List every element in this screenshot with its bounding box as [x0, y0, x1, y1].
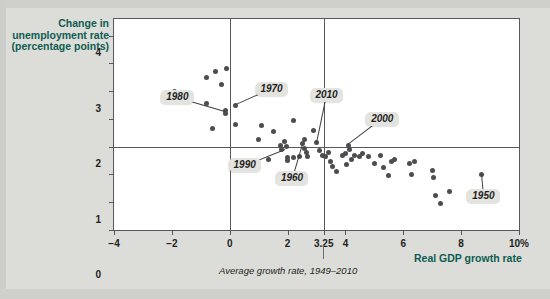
x-tick-label: 10% — [509, 238, 529, 249]
x-tick-label: 2 — [285, 238, 291, 249]
scatter-point — [430, 168, 435, 173]
x-tick: −2 — [172, 230, 173, 235]
x-tick-label: 6 — [401, 238, 407, 249]
y-tick: 3 — [109, 63, 114, 64]
x-tick-label: 3.25 — [314, 238, 333, 249]
y-tick: 1 — [109, 119, 114, 120]
scatter-point — [334, 169, 339, 174]
x-tick: 3.25 — [324, 230, 325, 235]
scatter-point — [224, 66, 229, 71]
y-tick: 0 — [109, 147, 114, 148]
scatter-point — [213, 69, 218, 74]
scatter-point — [219, 82, 224, 87]
average-growth-caption: Average growth rate, 1949–2010 — [219, 265, 357, 276]
x-tick: 4 — [345, 230, 346, 235]
page-bottom-edge — [0, 289, 550, 299]
scatter-point — [266, 157, 271, 162]
scatter-point — [386, 173, 391, 178]
scatter-point — [271, 129, 276, 134]
x-tick: 2 — [288, 230, 289, 235]
y-axis-title: Change in unemployment rate (percentage … — [6, 18, 109, 53]
scatter-point — [378, 153, 383, 158]
x-tick: 6 — [403, 230, 404, 235]
scatter-point — [344, 162, 349, 167]
scatter-point — [447, 189, 452, 194]
scatter-point — [352, 153, 357, 158]
scatter-point — [431, 175, 436, 180]
callout-leader-line — [316, 94, 327, 142]
x-tick-label: 8 — [458, 238, 464, 249]
x-tick-label: 0 — [227, 238, 233, 249]
scatter-point — [259, 123, 264, 128]
callout-1950[interactable]: 1950 — [467, 189, 499, 203]
average-growth-rate-line — [324, 19, 325, 231]
scatter-point — [204, 75, 209, 80]
scatter-point — [438, 201, 443, 206]
scatter-point — [291, 155, 296, 160]
y-tick-label: 4 — [95, 47, 101, 58]
callout-1990[interactable]: 1990 — [229, 158, 261, 172]
scatter-point — [282, 139, 287, 144]
scatter-point — [409, 172, 414, 177]
scatter-point — [360, 151, 365, 156]
scatter-point — [412, 159, 417, 164]
callout-1960[interactable]: 1960 — [276, 171, 308, 185]
y-tick: 4 — [109, 36, 114, 37]
x-tick-label: 4 — [343, 238, 349, 249]
scatter-point — [366, 154, 371, 159]
scatter-point — [392, 157, 397, 162]
scatter-point — [326, 150, 331, 155]
zero-vertical-reference-line — [230, 19, 231, 231]
x-tick: 8 — [461, 230, 462, 235]
scatter-point — [433, 193, 438, 198]
x-tick: 0 — [230, 230, 231, 235]
y-tick: −2 — [109, 202, 114, 203]
y-tick-label: 1 — [95, 213, 101, 224]
callout-2010[interactable]: 2010 — [310, 88, 342, 102]
scatter-point — [256, 137, 261, 142]
scatter-point — [372, 161, 377, 166]
page-top-edge — [0, 0, 550, 8]
scatter-point — [330, 164, 335, 169]
callout-1980[interactable]: 1980 — [161, 90, 193, 104]
y-tick: 2 — [109, 91, 114, 92]
average-caption-tick — [323, 245, 324, 259]
y-tick: −1 — [109, 174, 114, 175]
y-tick-label: 2 — [95, 158, 101, 169]
callout-2000[interactable]: 2000 — [366, 112, 398, 126]
scatter-point — [291, 118, 296, 123]
y-tick-label: 3 — [95, 102, 101, 113]
scatter-point — [210, 126, 215, 131]
scatter-point — [347, 147, 352, 152]
scatter-point — [233, 122, 238, 127]
x-tick-label: −4 — [108, 238, 119, 249]
scatter-point — [407, 161, 412, 166]
scatter-point — [305, 154, 310, 159]
scatter-point — [311, 128, 316, 133]
scatter-point — [381, 165, 386, 170]
x-tick: −4 — [114, 230, 115, 235]
x-axis-title: Real GDP growth rate — [414, 252, 522, 264]
figure-container: Change in unemployment rate (percentage … — [0, 0, 550, 299]
plot-area: 43210−1−2−3 −4−2023.2546810% 19801970201… — [113, 18, 520, 231]
callout-1970[interactable]: 1970 — [255, 82, 287, 96]
x-tick-label: −2 — [166, 238, 177, 249]
y-tick-label: 0 — [95, 269, 101, 280]
scatter-point — [343, 151, 348, 156]
x-tick: 10% — [519, 230, 520, 235]
